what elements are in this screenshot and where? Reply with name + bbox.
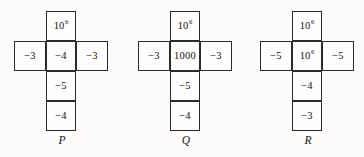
net-p-cell-lower-value: −5 xyxy=(55,81,67,92)
net-r-cell-left: −5 xyxy=(260,41,292,71)
net-q-label: Q xyxy=(124,134,248,146)
net-p-cell-top-value: 106 xyxy=(54,21,69,32)
net-p-cell-left: −3 xyxy=(14,41,46,71)
net-p-cell-right-value: −3 xyxy=(86,51,98,62)
net-q-cell-right: −3 xyxy=(200,41,232,71)
net-q-cell-lower-value: −5 xyxy=(179,81,191,92)
net-q-cell-top: 106 xyxy=(170,11,200,41)
net-r-label: R xyxy=(246,134,364,146)
net-q-cell-middle-value: 1000 xyxy=(174,51,196,62)
net-r-cell-right-value: −5 xyxy=(332,51,344,62)
net-r-cell-bottom-value: −3 xyxy=(301,111,313,122)
net-p-cell-middle-value: −4 xyxy=(55,51,67,62)
net-q-cell-bottom: −4 xyxy=(170,101,200,131)
net-r-cell-top-value: 106 xyxy=(300,21,315,32)
net-q-cell-middle: 1000 xyxy=(170,41,200,71)
net-q-cell-left: −3 xyxy=(138,41,170,71)
net-p-cell-lower: −5 xyxy=(46,71,76,101)
cube-net-q: 106 −3 1000 −3 −5 −4 Q xyxy=(124,0,248,157)
figure-board: 106 −3 −4 −3 −5 −4 P 106 −3 1000 −3 xyxy=(0,0,364,157)
net-q-cell-left-value: −3 xyxy=(148,51,160,62)
net-p-cell-bottom: −4 xyxy=(46,101,76,131)
cube-net-p: 106 −3 −4 −3 −5 −4 P xyxy=(0,0,124,157)
net-p-label: P xyxy=(0,134,124,146)
net-r-cell-right: −5 xyxy=(322,41,354,71)
net-p-cell-left-value: −3 xyxy=(24,51,36,62)
net-r-cell-left-value: −5 xyxy=(270,51,282,62)
net-q-cell-right-value: −3 xyxy=(210,51,222,62)
net-r-cell-top: 106 xyxy=(292,11,322,41)
net-r-cell-lower-value: −4 xyxy=(301,81,313,92)
cube-net-r: 106 −5 106 −5 −4 −3 R xyxy=(246,0,364,157)
net-r-cell-lower: −4 xyxy=(292,71,322,101)
net-q-cell-top-value: 106 xyxy=(178,21,193,32)
net-p-cell-top: 106 xyxy=(46,11,76,41)
net-p-cell-middle: −4 xyxy=(46,41,76,71)
net-q-cell-bottom-value: −4 xyxy=(179,111,191,122)
net-p-cell-right: −3 xyxy=(76,41,108,71)
net-q-cell-lower: −5 xyxy=(170,71,200,101)
net-r-cell-middle: 106 xyxy=(292,41,322,71)
net-p-cell-bottom-value: −4 xyxy=(55,111,67,122)
net-r-cell-bottom: −3 xyxy=(292,101,322,131)
net-r-cell-middle-value: 106 xyxy=(300,51,315,62)
